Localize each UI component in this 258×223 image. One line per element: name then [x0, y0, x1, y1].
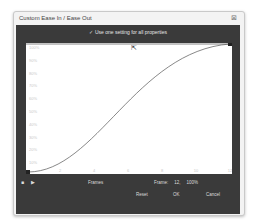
- frame-readout: Frame:12,100%: [154, 180, 204, 185]
- ok-button[interactable]: OK: [173, 192, 180, 197]
- ease-graph[interactable]: 100%90%80%70%60%50%40%30%20%10% 24681012: [26, 43, 232, 174]
- y-tick-label: 20%: [29, 147, 37, 152]
- reset-button[interactable]: Reset: [136, 192, 148, 197]
- x-tick-label: 2: [59, 168, 62, 173]
- y-tick-label: 50%: [29, 109, 37, 114]
- x-tick-label: 4: [93, 168, 96, 173]
- mouse-cursor-icon: ⇱: [131, 44, 137, 52]
- ease-curve[interactable]: [28, 44, 230, 172]
- play-icon[interactable]: ▶: [31, 179, 35, 185]
- use-one-setting-checkbox[interactable]: ✓Use one setting for all properties: [16, 29, 240, 35]
- y-tick-label: 60%: [29, 96, 37, 101]
- dialog-title: Custom Ease In / Ease Out: [19, 15, 92, 21]
- y-tick-label: 80%: [29, 71, 37, 76]
- checkbox-label: Use one setting for all properties: [95, 29, 167, 35]
- percent-value: 100%: [187, 180, 199, 185]
- frame-label: Frame:: [154, 180, 168, 185]
- ease-graph-svg: 100%90%80%70%60%50%40%30%20%10% 24681012: [26, 43, 232, 174]
- y-tick-label: 90%: [29, 58, 37, 63]
- x-tick-label: 6: [127, 168, 130, 173]
- y-tick-label: 100%: [29, 45, 40, 50]
- checkmark-icon: ✓: [89, 29, 93, 35]
- x-tick-label: 8: [161, 168, 164, 173]
- close-icon[interactable]: ⊠: [229, 14, 238, 22]
- x-axis-label: Frames: [88, 180, 103, 185]
- end-handle[interactable]: [228, 43, 232, 46]
- y-tick-label: 70%: [29, 83, 37, 88]
- start-handle[interactable]: [26, 170, 30, 174]
- ease-panel: ✓Use one setting for all properties 100%…: [16, 25, 240, 214]
- y-tick-label: 10%: [29, 160, 37, 165]
- stop-icon[interactable]: ■: [21, 179, 24, 185]
- y-tick-label: 40%: [29, 122, 37, 127]
- y-tick-label: 30%: [29, 135, 37, 140]
- frame-value: 12,: [174, 180, 180, 185]
- x-tick-label: 12: [228, 168, 232, 173]
- custom-ease-dialog: Custom Ease In / Ease Out ⊠ ✓Use one set…: [13, 11, 245, 216]
- cancel-button[interactable]: Cancel: [206, 192, 220, 197]
- playback-controls: ■ ▶ Frames Frame:12,100%: [16, 178, 240, 188]
- x-tick-label: 10: [194, 168, 199, 173]
